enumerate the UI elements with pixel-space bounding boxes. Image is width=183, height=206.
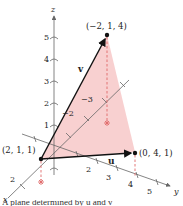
label-point-0-4-1: (0, 4, 1) <box>139 148 173 158</box>
y-tick-3: 3 <box>106 173 111 182</box>
point-neg2-1-4 <box>105 33 109 37</box>
point-0-4-1 <box>133 151 137 155</box>
z-tick-4: 4 <box>44 55 49 64</box>
z-tick-3: 3 <box>44 77 49 86</box>
label-point-neg2-1-4: (−2, 1, 4) <box>86 21 127 31</box>
y-tick-5: 5 <box>147 187 152 196</box>
label-vector-v: v <box>77 64 84 74</box>
y-tick-2: 2 <box>86 165 91 174</box>
x-tick-neg3: −3 <box>81 95 93 104</box>
label-point-2-1-1: (2, 1, 1) <box>2 145 36 155</box>
x-tick-2: 2 <box>10 175 15 184</box>
z-tick-1: 1 <box>44 121 49 130</box>
y-axis-label: y <box>173 187 179 196</box>
y-tick-4: 4 <box>128 180 133 189</box>
z-axis-label: z <box>50 5 56 14</box>
triangle-diagram: z x y 1 2 3 4 5 2 3 4 5 2 −2 −3 (−2, 1, … <box>0 0 183 206</box>
point-2-1-1 <box>39 157 43 161</box>
z-tick-2: 2 <box>44 99 49 108</box>
x-tick-neg2: −2 <box>62 109 74 118</box>
label-vector-u: u <box>108 156 115 166</box>
z-tick-5: 5 <box>44 33 49 42</box>
